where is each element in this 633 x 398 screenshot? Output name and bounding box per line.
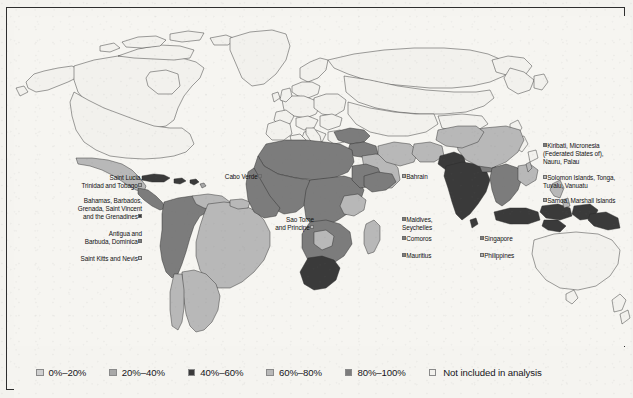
annotation-label: Bahrain: [406, 173, 427, 180]
legend-label: 80%–100%: [357, 367, 405, 378]
annotation-label: Kiribati, Micronesia (Federated States o…: [543, 142, 603, 165]
annotation-label: Samoa, Marshall Islands: [547, 197, 615, 204]
annotation-samoa-marshall: Samoa, Marshall Islands: [543, 189, 631, 205]
legend-swatch-icon: [429, 369, 437, 377]
annotation-swatch: [138, 183, 142, 187]
annotation-swatch: [310, 225, 314, 229]
annotation-swatch: [138, 214, 142, 218]
legend-swatch-icon: [266, 369, 274, 377]
annotation-kiribati-micronesia: Kiribati, Micronesia (Federated States o…: [543, 134, 631, 166]
annotation-label: Singapore: [484, 235, 512, 242]
legend-label: 60%–80%: [279, 367, 322, 378]
legend: 0%–20% 20%–40% 40%–60% 60%–80% 80%–100%: [14, 347, 631, 398]
annotation-mauritius: Mauritius: [402, 244, 464, 260]
annotation-swatch: [258, 174, 262, 178]
annotation-bahrain: Bahrain: [402, 165, 462, 181]
annotation-saint-lucia-trinidad: Saint Lucia, Trinidad and Tobago: [30, 166, 142, 190]
annotation-swatch: [138, 239, 142, 243]
legend-label: Not included in analysis: [443, 367, 541, 378]
legend-item-not-included: Not included in analysis: [429, 367, 542, 378]
annotation-singapore: Singapore: [480, 227, 546, 243]
legend-label: 40%–60%: [200, 367, 243, 378]
annotation-label: Solomon Islands, Tonga, Tuvalu, Vanuatu: [543, 174, 615, 189]
annotation-label: Sao Tome and Principe: [275, 216, 314, 231]
map-panel: .c{stroke:#2b2b2b;stroke-width:0.45;stro…: [14, 16, 631, 346]
annotation-label: Comoros: [406, 235, 431, 242]
annotation-sao-tome-principe: Sao Tome and Principe: [252, 208, 314, 232]
annotation-solomon-tonga: Solomon Islands, Tonga, Tuvalu, Vanuatu: [543, 166, 631, 190]
annotation-comoros: Comoros: [402, 227, 464, 243]
legend-item-60-80: 60%–80%: [266, 367, 322, 378]
annotation-saint-kitts-nevis: Saint Kitts and Nevis: [28, 247, 142, 263]
annotation-label: Antigua and Barbuda, Dominica: [85, 230, 142, 245]
legend-item-80-100: 80%–100%: [345, 367, 406, 378]
legend-swatch-icon: [36, 369, 44, 377]
legend-item-0-20: 0%–20%: [36, 367, 86, 378]
legend-swatch-icon: [109, 369, 117, 377]
figure-frame: .c{stroke:#2b2b2b;stroke-width:0.45;stro…: [6, 7, 625, 390]
annotation-philippines: Philippines: [480, 244, 546, 260]
figure-root: .c{stroke:#2b2b2b;stroke-width:0.45;stro…: [0, 0, 633, 398]
legend-swatch-icon: [345, 369, 353, 377]
annotation-label: Saint Lucia, Trinidad and Tobago: [81, 174, 142, 189]
annotation-cabo-verde: Cabo Verde: [200, 165, 262, 181]
legend-label: 20%–40%: [122, 367, 165, 378]
annotation-label: Bahamas, Barbados, Grenada, Saint Vincen…: [78, 197, 142, 220]
annotation-label: Mauritius: [406, 252, 431, 259]
annotation-antigua-barbuda: Antigua and Barbuda, Dominica: [34, 222, 142, 246]
legend-swatch-icon: [188, 369, 196, 377]
annotation-label: Philippines: [484, 252, 514, 259]
annotation-swatch: [138, 256, 142, 260]
annotation-bahamas-barbados: Bahamas, Barbados, Grenada, Saint Vincen…: [22, 189, 142, 221]
annotation-label: Cabo Verde: [225, 173, 258, 180]
legend-label: 0%–20%: [49, 367, 87, 378]
legend-items: 0%–20% 20%–40% 40%–60% 60%–80% 80%–100%: [14, 367, 631, 378]
legend-item-40-60: 40%–60%: [188, 367, 244, 378]
legend-item-20-40: 20%–40%: [109, 367, 165, 378]
annotation-label: Saint Kitts and Nevis: [81, 255, 138, 262]
